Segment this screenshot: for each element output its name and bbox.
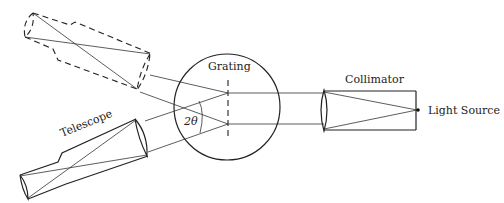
light-source-label: Light Source <box>428 104 500 117</box>
telescope-label: Telescope <box>58 107 114 140</box>
angle-label: 2θ <box>183 115 198 128</box>
telescope-undeviated <box>24 13 152 90</box>
grating-label: Grating <box>208 60 251 73</box>
light-source-dot <box>416 108 420 112</box>
spectrometer-diagram: Grating Collimator Light Source 2θ <box>0 0 504 203</box>
collimator-label: Collimator <box>345 73 405 86</box>
collimator <box>321 90 417 131</box>
